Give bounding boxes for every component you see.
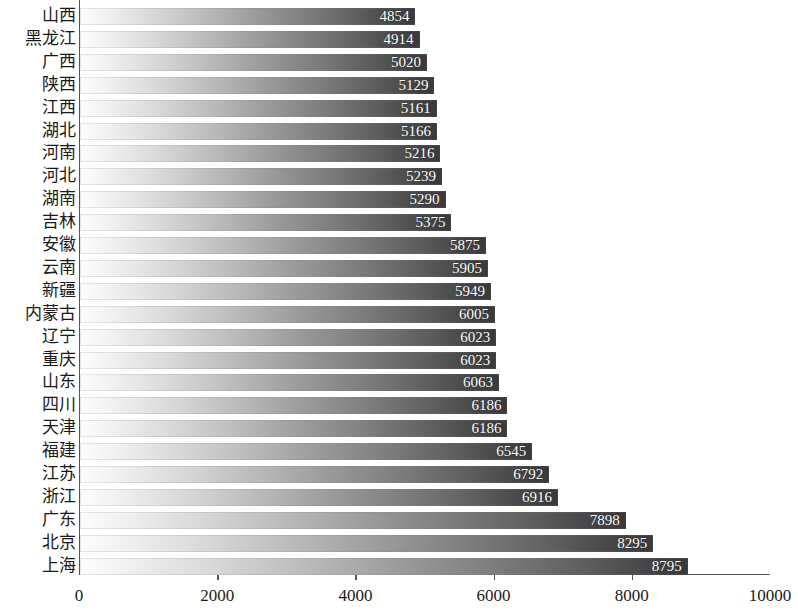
bar-row: 5905 <box>80 260 771 277</box>
category-label: 河北 <box>0 167 76 184</box>
bar-row: 5020 <box>80 54 771 71</box>
bar-row: 6005 <box>80 306 771 323</box>
x-axis-tick <box>494 575 495 580</box>
x-axis-tick-label: 2000 <box>200 586 234 606</box>
bar-value-label: 5216 <box>80 145 434 162</box>
category-label: 四川 <box>0 396 76 413</box>
bar-row: 8795 <box>80 558 771 575</box>
x-axis-tick <box>355 575 356 580</box>
category-label: 湖北 <box>0 122 76 139</box>
x-axis-tick-label: 6000 <box>477 586 511 606</box>
category-label: 福建 <box>0 442 76 459</box>
category-label: 江苏 <box>0 465 76 482</box>
category-label: 山西 <box>0 7 76 24</box>
category-label: 吉林 <box>0 213 76 230</box>
bar-row: 6023 <box>80 329 771 346</box>
category-label: 广东 <box>0 511 76 528</box>
bar-row: 5239 <box>80 168 771 185</box>
bar-value-label: 6186 <box>80 420 501 437</box>
plot-area: 4854491450205129516151665216523952905375… <box>79 0 770 575</box>
bar-value-label: 6023 <box>80 329 490 346</box>
bar-row: 7898 <box>80 512 771 529</box>
category-label: 山东 <box>0 373 76 390</box>
category-label: 辽宁 <box>0 328 76 345</box>
bar-row: 5216 <box>80 145 771 162</box>
x-axis-tick-label: 4000 <box>338 586 372 606</box>
bar-value-label: 5375 <box>80 214 445 231</box>
bar-value-label: 5875 <box>80 237 480 254</box>
x-axis-tick <box>632 575 633 580</box>
bar-value-label: 6186 <box>80 397 501 414</box>
bar-value-label: 6916 <box>80 489 552 506</box>
bar-row: 5290 <box>80 191 771 208</box>
x-axis-tick-label: 8000 <box>615 586 649 606</box>
category-axis: 山西黑龙江广西陕西江西湖北河南河北湖南吉林安徽云南新疆内蒙古辽宁重庆山东四川天津… <box>0 0 78 575</box>
bar-row: 6545 <box>80 443 771 460</box>
bar-value-label: 4854 <box>80 8 409 25</box>
category-label: 天津 <box>0 419 76 436</box>
x-axis-tick-label: 10000 <box>749 586 792 606</box>
bar-value-label: 5290 <box>80 191 440 208</box>
category-label: 湖南 <box>0 190 76 207</box>
bar-value-label: 8295 <box>80 535 647 552</box>
bar-row: 6186 <box>80 397 771 414</box>
category-label: 新疆 <box>0 282 76 299</box>
bar-value-label: 6063 <box>80 374 493 391</box>
category-label: 重庆 <box>0 351 76 368</box>
bar-value-label: 4914 <box>80 31 414 48</box>
category-label: 陕西 <box>0 76 76 93</box>
category-label: 内蒙古 <box>0 305 76 322</box>
bar-value-label: 7898 <box>80 512 620 529</box>
bar-row: 6792 <box>80 466 771 483</box>
bar-row: 4854 <box>80 8 771 25</box>
bar-value-label: 5166 <box>80 123 431 140</box>
category-label: 云南 <box>0 259 76 276</box>
category-label: 广西 <box>0 53 76 70</box>
category-label: 浙江 <box>0 488 76 505</box>
bar-value-label: 8795 <box>80 558 682 575</box>
bar-row: 5129 <box>80 77 771 94</box>
bar-value-label: 5905 <box>80 260 482 277</box>
x-axis-tick-label: 0 <box>75 586 84 606</box>
bar-row: 6023 <box>80 352 771 369</box>
bar-row: 5375 <box>80 214 771 231</box>
horizontal-bar-chart: 山西黑龙江广西陕西江西湖北河南河北湖南吉林安徽云南新疆内蒙古辽宁重庆山东四川天津… <box>0 0 798 615</box>
bar-row: 6063 <box>80 374 771 391</box>
category-label: 北京 <box>0 534 76 551</box>
category-label: 安徽 <box>0 236 76 253</box>
bar-row: 5949 <box>80 283 771 300</box>
bar-row: 5875 <box>80 237 771 254</box>
bar-row: 8295 <box>80 535 771 552</box>
bar-value-label: 6005 <box>80 306 489 323</box>
bar-value-label: 5239 <box>80 168 436 185</box>
bar-row: 6186 <box>80 420 771 437</box>
category-label: 黑龙江 <box>0 30 76 47</box>
bar-value-label: 6023 <box>80 352 490 369</box>
bar-value-label: 5949 <box>80 283 485 300</box>
x-axis-tick <box>217 575 218 580</box>
bar-row: 5166 <box>80 123 771 140</box>
bar-value-label: 5161 <box>80 100 431 117</box>
bar-row: 5161 <box>80 100 771 117</box>
bar-value-label: 5020 <box>80 54 421 71</box>
bars-container: 4854491450205129516151665216523952905375… <box>80 0 771 575</box>
category-label: 江西 <box>0 99 76 116</box>
bar-value-label: 5129 <box>80 77 428 94</box>
bar-row: 4914 <box>80 31 771 48</box>
value-axis: 0200040006000800010000 <box>79 575 770 615</box>
bar-value-label: 6792 <box>80 466 543 483</box>
bar-row: 6916 <box>80 489 771 506</box>
bar-value-label: 6545 <box>80 443 526 460</box>
category-label: 上海 <box>0 557 76 574</box>
category-label: 河南 <box>0 144 76 161</box>
